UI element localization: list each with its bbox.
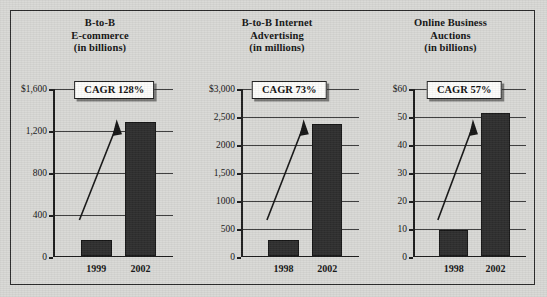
chart-title-line-2: Auctions: [365, 30, 536, 43]
y-axis-tick-label: 500: [221, 224, 235, 234]
y-axis-line: [413, 89, 415, 257]
x-axis-category-label: 2002: [485, 263, 505, 274]
y-axis-tick-label: 2,500: [214, 112, 235, 122]
y-axis-tick-label: 2000: [216, 140, 235, 150]
y-axis-tick-label: 400: [33, 210, 47, 220]
chart-title-line-3: (in billions): [11, 42, 189, 55]
y-axis-tick-label: 0: [230, 252, 235, 262]
y-axis-tick-label: 1,200: [26, 126, 47, 136]
chart-title-line-2: E-commerce: [11, 30, 189, 43]
chart-title: B-to-B E-commerce (in billions): [11, 17, 189, 55]
chart-title-line-1: B-to-B Internet: [189, 17, 365, 30]
y-axis-tick-label: $60: [393, 84, 407, 94]
y-axis-line: [241, 89, 243, 257]
y-axis-tick-label: 20: [398, 196, 408, 206]
bar: [125, 122, 156, 255]
cagr-callout: CAGR 73%: [252, 81, 327, 99]
y-axis-tick-label: 40: [398, 140, 408, 150]
chart-title: Online Business Auctions (in billions): [365, 17, 536, 55]
y-axis-tick-label: $3,000: [209, 84, 235, 94]
x-axis-category-label: 1998: [273, 263, 293, 274]
y-axis-tick-label: 50: [398, 112, 408, 122]
plot-area: 04008001,200$1,60019992002: [53, 89, 173, 257]
chart-panel-b2b-ecommerce: B-to-B E-commerce (in billions) 04008001…: [11, 11, 189, 286]
y-axis-tick-label: 1000: [216, 196, 235, 206]
x-axis-category-label: 1998: [444, 263, 464, 274]
bar: [81, 240, 112, 255]
gridline: [241, 117, 359, 118]
y-axis-tick-label: $1,600: [21, 84, 47, 94]
x-axis-category-label: 1999: [86, 263, 106, 274]
chart-title: B-to-B Internet Advertising (in millions…: [189, 17, 365, 55]
y-axis-tick: [49, 257, 53, 259]
y-axis-tick-label: 800: [33, 168, 47, 178]
plot-area: 050010001,50020002,500$3,00019982002: [241, 89, 359, 257]
y-axis-tick-label: 0: [402, 252, 407, 262]
y-axis-tick-label: 0: [42, 252, 47, 262]
x-axis-line: [413, 256, 526, 258]
chart-title-line-3: (in millions): [189, 42, 365, 55]
cagr-callout: CAGR 128%: [74, 81, 154, 99]
x-axis-category-label: 2002: [131, 263, 151, 274]
bar: [268, 240, 299, 256]
plot-area: 01020304050$6019982002: [413, 89, 526, 257]
y-axis-tick: [409, 257, 413, 259]
x-axis-line: [241, 256, 359, 258]
chart-title-line-1: Online Business: [365, 17, 536, 30]
x-axis-line: [53, 256, 173, 258]
figure-frame: B-to-B E-commerce (in billions) 04008001…: [10, 10, 535, 285]
y-axis-tick: [237, 257, 241, 259]
x-axis-category-label: 2002: [317, 263, 337, 274]
chart-panel-b2b-internet-advertising: B-to-B Internet Advertising (in millions…: [189, 11, 365, 286]
chart-title-line-3: (in billions): [365, 42, 536, 55]
chart-title-line-1: B-to-B: [11, 17, 189, 30]
chart-title-line-2: Advertising: [189, 30, 365, 43]
y-axis-tick-label: 1,500: [214, 168, 235, 178]
bar: [312, 124, 343, 256]
bar: [439, 230, 468, 255]
cagr-callout: CAGR 57%: [427, 81, 502, 99]
y-axis-tick-label: 10: [398, 224, 408, 234]
bar: [481, 113, 510, 256]
chart-panel-online-business-auctions: Online Business Auctions (in billions) 0…: [365, 11, 536, 286]
y-axis-line: [53, 89, 55, 257]
y-axis-tick-label: 30: [398, 168, 408, 178]
